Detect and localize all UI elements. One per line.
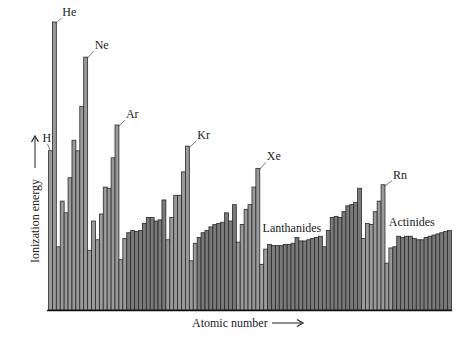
bar-z51: [244, 209, 248, 310]
bar-z83: [369, 225, 373, 310]
bar-z32: [170, 218, 174, 310]
leader-xe: [259, 162, 266, 170]
label-ne: Ne: [95, 38, 109, 52]
bar-z24: [138, 230, 142, 310]
bar-z76: [342, 212, 346, 310]
leader-ar: [118, 120, 125, 127]
bar-z75: [338, 218, 342, 310]
bar-z77: [346, 206, 350, 310]
bar-z84: [373, 212, 377, 310]
bar-z19: [119, 260, 123, 310]
bar-z97: [424, 237, 428, 310]
bar-z56: [264, 249, 268, 310]
leader-rn: [384, 181, 392, 187]
bar-z93: [408, 236, 412, 310]
bar-z73: [330, 218, 334, 310]
bar-z96: [420, 240, 424, 310]
bar-z67: [307, 240, 311, 310]
bar-z103: [448, 230, 452, 310]
y-axis-title: Ionization energy: [28, 179, 42, 263]
bar-z1: [49, 151, 53, 310]
bar-z60: [279, 246, 283, 310]
bar-z42: [209, 227, 213, 310]
bar-z23: [135, 232, 139, 310]
bar-z43: [213, 225, 217, 310]
bar-z52: [248, 205, 252, 310]
bar-z91: [401, 237, 405, 310]
bar-z86: [381, 185, 385, 310]
bar-z17: [111, 158, 115, 310]
bar-z58: [272, 246, 276, 310]
label-rn: Rn: [393, 168, 407, 182]
y-axis-title-group: Ionization energy: [28, 136, 42, 263]
bar-z20: [123, 239, 127, 310]
x-axis-title: Atomic number: [192, 316, 268, 330]
bar-z15: [103, 187, 107, 310]
bar-z82: [365, 223, 369, 310]
bar-z53: [252, 187, 256, 310]
bar-z30: [162, 200, 166, 310]
bar-z87: [385, 263, 389, 310]
bar-z70: [318, 236, 322, 310]
bar-z44: [217, 223, 221, 310]
bar-z98: [428, 236, 432, 310]
label-ar: Ar: [126, 107, 139, 121]
bar-z62: [287, 244, 291, 310]
element-labels: HHeNeArKrXeRnLanthanidesActinides: [42, 5, 435, 235]
bar-z28: [154, 221, 158, 310]
bar-z6: [68, 178, 72, 310]
bar-z57: [268, 244, 272, 310]
bar-z102: [444, 232, 448, 310]
bar-z3: [56, 247, 60, 310]
bar-z13: [95, 240, 99, 310]
bar-z72: [326, 230, 330, 310]
bar-z63: [291, 243, 295, 310]
label-kr: Kr: [197, 128, 210, 142]
leader-ne: [87, 51, 94, 59]
bar-z35: [182, 172, 186, 310]
bar-z65: [299, 241, 303, 310]
bar-z49: [236, 242, 240, 310]
bar-z61: [283, 244, 287, 310]
bar-z4: [60, 201, 64, 310]
bar-z81: [362, 239, 366, 310]
bar-z48: [232, 205, 236, 310]
ionization-energy-chart: HHeNeArKrXeRnLanthanidesActinides Ioniza…: [0, 0, 474, 343]
bar-z69: [315, 237, 319, 310]
bar-z40: [201, 233, 205, 310]
bar-z79: [354, 202, 358, 310]
label-h: H: [42, 131, 51, 145]
bar-z14: [99, 214, 103, 310]
bar-z9: [80, 106, 84, 310]
leader-h: [47, 144, 50, 151]
bar-z12: [92, 221, 96, 310]
bar-z55: [260, 264, 264, 310]
label-lanthanides: Lanthanides: [263, 221, 322, 235]
bar-z99: [432, 235, 436, 310]
bar-z100: [436, 234, 440, 310]
bar-z85: [377, 201, 381, 310]
leader-he: [55, 18, 61, 24]
bar-z101: [440, 233, 444, 310]
bar-z36: [185, 146, 189, 310]
leader-kr: [188, 141, 196, 148]
bar-z22: [131, 230, 135, 310]
bar-z5: [64, 213, 68, 310]
bar-z21: [127, 233, 131, 310]
bar-z33: [174, 195, 178, 310]
bar-z39: [197, 237, 201, 310]
bar-z68: [311, 239, 315, 310]
bar-z2: [52, 22, 56, 310]
bar-z64: [295, 237, 299, 310]
bar-z59: [275, 246, 279, 310]
label-he: He: [62, 5, 76, 19]
bar-z71: [322, 247, 326, 310]
bar-z7: [72, 140, 76, 310]
bar-z74: [334, 216, 338, 310]
bar-z18: [115, 125, 119, 310]
bar-z31: [166, 240, 170, 310]
bar-z47: [228, 221, 232, 310]
bar-z25: [142, 223, 146, 310]
bar-z29: [158, 220, 162, 310]
bars-group: [49, 22, 452, 310]
